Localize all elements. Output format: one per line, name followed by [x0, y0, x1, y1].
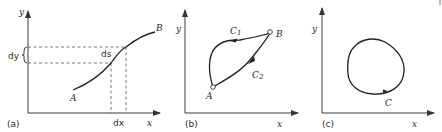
path-c2-label: C2 — [252, 70, 264, 81]
panel-a: y x dy A B ds dx (a) — [7, 7, 163, 129]
point-a-label-b: A — [205, 91, 213, 101]
x-axis-label-b: x — [277, 119, 282, 129]
path-c1-label: C1 — [230, 26, 241, 37]
curve-ab — [73, 32, 155, 90]
figure: y x dy A B ds dx (a) y x A B C1 C2 — [0, 0, 442, 132]
point-b — [268, 30, 273, 35]
panel-caption-b: (b) — [185, 119, 198, 129]
point-a — [211, 85, 216, 90]
ds-label: ds — [101, 49, 112, 59]
dy-brace-icon — [22, 47, 27, 63]
point-a-label: A — [69, 93, 77, 103]
x-axis-label-c: x — [412, 119, 417, 129]
panel-b: y x A B C1 C2 (b) — [175, 10, 298, 129]
dx-label: dx — [113, 118, 125, 128]
panel-caption-c: (c) — [322, 119, 334, 129]
closed-curve-c — [348, 39, 404, 94]
y-axis-label-b: y — [175, 24, 182, 34]
y-axis-label-c: y — [311, 24, 318, 34]
panel-caption-a: (a) — [7, 119, 20, 129]
y-axis-label-a: y — [18, 7, 25, 17]
point-b-label-b: B — [275, 29, 283, 39]
dy-label: dy — [8, 51, 20, 61]
closed-curve-label: C — [385, 98, 392, 108]
point-b-label: B — [155, 23, 163, 33]
panel-c: y x C (c) — [311, 8, 434, 129]
x-axis-label-a: x — [147, 118, 152, 128]
